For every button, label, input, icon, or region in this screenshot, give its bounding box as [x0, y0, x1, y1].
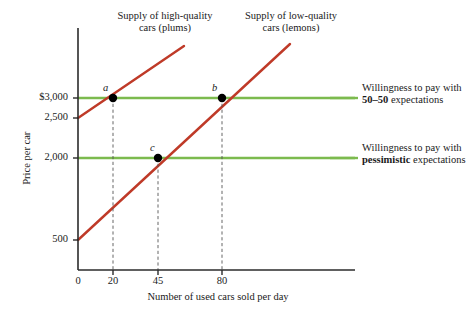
y-tick-label-2000: 2,000	[24, 151, 68, 163]
point-label-c: c	[150, 142, 155, 154]
supply-lemons-line	[78, 44, 290, 240]
supply-lemons-label-line2: cars (lemons)	[263, 22, 320, 33]
supply-plums-label-line2: cars (plums)	[139, 22, 191, 33]
point-label-a: a	[103, 82, 108, 94]
x-tick-label-20: 20	[100, 275, 126, 287]
supply-lemons-label: Supply of low-quality cars (lemons)	[230, 10, 352, 35]
willingness-pessimistic-label-rest: expectations	[410, 154, 465, 165]
willingness-5050-label-line1: Willingness to pay with	[362, 82, 462, 93]
willingness-5050-label: Willingness to pay with 50–50 expectatio…	[362, 82, 466, 107]
supply-lemons-label-line1: Supply of low-quality	[245, 10, 337, 21]
willingness-5050-label-emphasis: 50–50	[362, 94, 388, 105]
x-tick-label-80: 80	[209, 275, 235, 287]
willingness-5050-label-rest: expectations	[388, 94, 443, 105]
supply-plums-label-line1: Supply of high-quality	[117, 10, 212, 21]
y-tick-label-500: 500	[24, 233, 68, 245]
y-tick-label-3000: $3,000	[24, 91, 68, 103]
y-tick-label-2500: 2,500	[24, 111, 68, 123]
point-label-b: b	[212, 82, 217, 94]
x-axis-title: Number of used cars sold per day	[78, 291, 358, 303]
x-tick-label-0: 0	[65, 275, 91, 287]
point-marker-c	[154, 154, 162, 162]
supply-plums-label: Supply of high-quality cars (plums)	[104, 10, 226, 35]
point-marker-b	[218, 94, 226, 102]
willingness-pessimistic-label-emphasis: pessimistic	[362, 154, 410, 165]
supply-plums-line	[78, 46, 184, 118]
willingness-pessimistic-label: Willingness to pay with pessimistic expe…	[362, 142, 466, 167]
point-marker-a	[109, 94, 117, 102]
willingness-pessimistic-label-line1: Willingness to pay with	[362, 142, 462, 153]
x-tick-label-45: 45	[145, 275, 171, 287]
